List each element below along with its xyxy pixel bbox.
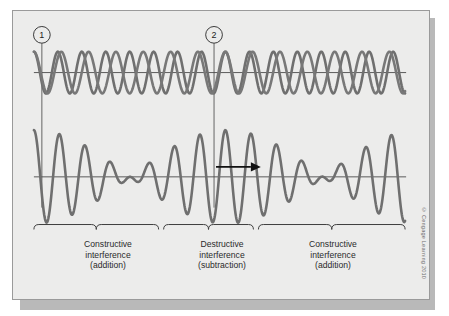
marker-1: 1	[34, 26, 51, 43]
caption-line: (addition)	[259, 260, 407, 271]
marker-2-label: 2	[212, 30, 217, 40]
caption-line: (addition)	[34, 260, 182, 271]
figure-stage: Wavelength interference wave 1 2	[0, 0, 449, 316]
brace-region-2	[164, 225, 254, 230]
copyright-notice: © Cengage Learning 2010	[421, 207, 427, 279]
caption-line: interference	[259, 250, 407, 261]
caption-line: Constructive	[259, 239, 407, 250]
figure-panel: 1 2 Constructive interference (addition)…	[12, 10, 430, 300]
marker-2: 2	[206, 26, 223, 43]
caption-region-1: Constructive interference (addition)	[34, 239, 182, 271]
brace-region-1	[34, 225, 159, 230]
wave-direction-arrow	[216, 162, 261, 171]
caption-region-3: Constructive interference (addition)	[259, 239, 407, 271]
marker-1-label: 1	[39, 30, 44, 40]
brace-region-3	[258, 225, 405, 230]
caption-line: Constructive	[34, 239, 182, 250]
caption-line: interference	[34, 250, 182, 261]
